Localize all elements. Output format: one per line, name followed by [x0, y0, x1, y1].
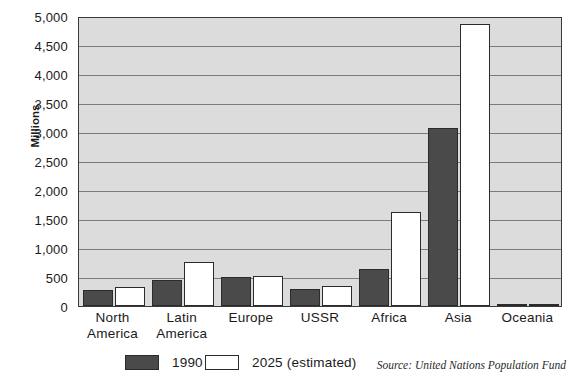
source-note: Source: United Nations Population Fund	[377, 359, 566, 371]
bar-group	[428, 18, 490, 306]
x-axis-label: Oceania	[481, 310, 573, 326]
y-axis-tick-labels: 05001,0001,5002,0002,5003,0003,5004,0004…	[0, 17, 73, 307]
y-tick-label: 2,500	[34, 156, 68, 169]
bar-2025[interactable]	[391, 212, 421, 306]
y-tick-label: 3,500	[34, 98, 68, 111]
bar-2025[interactable]	[115, 287, 145, 306]
bars-layer	[79, 18, 561, 306]
bar-group	[83, 18, 145, 306]
bar-group	[359, 18, 421, 306]
x-axis-label-line: Oceania	[481, 310, 573, 326]
bar-1990[interactable]	[497, 304, 527, 306]
bar-2025[interactable]	[253, 276, 283, 306]
y-tick-label: 1,000	[34, 243, 68, 256]
bar-2025[interactable]	[529, 304, 559, 306]
legend-label-2025: 2025 (estimated)	[252, 355, 357, 370]
plot-area	[78, 17, 562, 307]
x-axis-category-labels: NorthAmericaLatinAmericaEuropeUSSRAfrica…	[78, 310, 562, 350]
bar-group	[221, 18, 283, 306]
y-tick-label: 4,000	[34, 69, 68, 82]
bar-1990[interactable]	[290, 289, 320, 306]
bar-group	[290, 18, 352, 306]
bar-1990[interactable]	[428, 128, 458, 306]
bar-2025[interactable]	[184, 262, 214, 306]
bar-1990[interactable]	[152, 280, 182, 306]
legend-item-2025[interactable]: 2025 (estimated)	[205, 355, 357, 370]
y-tick-label: 1,500	[34, 214, 68, 227]
legend-item-1990[interactable]: 1990	[125, 355, 203, 370]
bar-1990[interactable]	[83, 290, 113, 306]
bar-group	[152, 18, 214, 306]
y-tick-label: 2,000	[34, 185, 68, 198]
x-axis-label-line: America	[136, 326, 228, 342]
y-tick-label: 5,000	[34, 11, 68, 24]
bar-group	[497, 18, 559, 306]
legend-swatch-1990	[125, 355, 159, 370]
population-bar-chart: Millions 05001,0001,5002,0002,5003,0003,…	[0, 0, 575, 391]
y-tick-label: 4,500	[34, 40, 68, 53]
y-tick-label: 500	[46, 272, 68, 285]
bar-1990[interactable]	[221, 277, 251, 306]
bar-2025[interactable]	[460, 24, 490, 306]
bar-1990[interactable]	[359, 269, 389, 306]
legend-swatch-2025	[205, 355, 239, 370]
y-tick-label: 3,000	[34, 127, 68, 140]
bar-2025[interactable]	[322, 286, 352, 306]
legend-label-1990: 1990	[172, 355, 203, 370]
